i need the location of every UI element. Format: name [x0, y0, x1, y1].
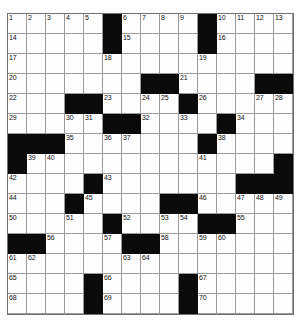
crossword-cell[interactable] — [46, 54, 65, 74]
crossword-cell[interactable]: 70 — [198, 294, 217, 314]
crossword-cell[interactable]: 59 — [198, 234, 217, 254]
crossword-cell[interactable]: 63 — [122, 254, 141, 274]
crossword-cell[interactable]: 62 — [27, 254, 46, 274]
crossword-cell[interactable] — [236, 54, 255, 74]
crossword-cell[interactable]: 55 — [236, 214, 255, 234]
crossword-cell[interactable] — [274, 134, 293, 154]
crossword-cell[interactable] — [65, 254, 84, 274]
crossword-cell[interactable]: 39 — [27, 154, 46, 174]
crossword-cell[interactable] — [46, 174, 65, 194]
crossword-cell[interactable]: 22 — [8, 94, 27, 114]
crossword-cell[interactable] — [274, 34, 293, 54]
crossword-cell[interactable]: 50 — [8, 214, 27, 234]
crossword-cell[interactable] — [27, 174, 46, 194]
crossword-cell[interactable]: 52 — [122, 214, 141, 234]
crossword-cell[interactable] — [27, 114, 46, 134]
crossword-cell[interactable]: 4 — [65, 14, 84, 34]
crossword-cell[interactable] — [141, 214, 160, 234]
crossword-cell[interactable] — [217, 54, 236, 74]
crossword-cell[interactable] — [46, 194, 65, 214]
crossword-cell[interactable]: 19 — [198, 54, 217, 74]
crossword-cell[interactable] — [141, 54, 160, 74]
crossword-cell[interactable] — [255, 294, 274, 314]
crossword-cell[interactable] — [122, 54, 141, 74]
crossword-cell[interactable] — [236, 154, 255, 174]
crossword-cell[interactable] — [46, 114, 65, 134]
crossword-cell[interactable] — [141, 174, 160, 194]
crossword-cell[interactable] — [179, 154, 198, 174]
crossword-cell[interactable]: 44 — [8, 194, 27, 214]
crossword-cell[interactable]: 13 — [274, 14, 293, 34]
crossword-cell[interactable] — [65, 154, 84, 174]
crossword-cell[interactable]: 65 — [8, 274, 27, 294]
crossword-cell[interactable]: 14 — [8, 34, 27, 54]
crossword-cell[interactable] — [160, 134, 179, 154]
crossword-cell[interactable]: 1 — [8, 14, 27, 34]
crossword-cell[interactable] — [84, 234, 103, 254]
crossword-cell[interactable]: 37 — [122, 134, 141, 154]
crossword-cell[interactable]: 16 — [217, 34, 236, 54]
crossword-cell[interactable] — [141, 34, 160, 54]
crossword-cell[interactable] — [217, 74, 236, 94]
crossword-cell[interactable]: 51 — [65, 214, 84, 234]
crossword-cell[interactable]: 67 — [198, 274, 217, 294]
crossword-cell[interactable]: 3 — [46, 14, 65, 34]
crossword-cell[interactable]: 36 — [103, 134, 122, 154]
crossword-cell[interactable] — [217, 154, 236, 174]
crossword-cell[interactable] — [236, 94, 255, 114]
crossword-cell[interactable] — [255, 214, 274, 234]
crossword-cell[interactable] — [27, 74, 46, 94]
crossword-cell[interactable] — [217, 194, 236, 214]
crossword-cell[interactable] — [84, 34, 103, 54]
crossword-cell[interactable]: 38 — [217, 134, 236, 154]
crossword-cell[interactable] — [255, 254, 274, 274]
crossword-cell[interactable] — [198, 114, 217, 134]
crossword-cell[interactable] — [141, 274, 160, 294]
crossword-cell[interactable] — [179, 34, 198, 54]
crossword-cell[interactable] — [141, 194, 160, 214]
crossword-cell[interactable] — [27, 294, 46, 314]
crossword-cell[interactable] — [122, 274, 141, 294]
crossword-cell[interactable] — [179, 54, 198, 74]
crossword-cell[interactable] — [122, 194, 141, 214]
crossword-cell[interactable] — [236, 274, 255, 294]
crossword-cell[interactable] — [255, 234, 274, 254]
crossword-cell[interactable] — [160, 274, 179, 294]
crossword-cell[interactable] — [103, 74, 122, 94]
crossword-cell[interactable] — [84, 214, 103, 234]
crossword-cell[interactable] — [217, 274, 236, 294]
crossword-cell[interactable] — [46, 274, 65, 294]
crossword-cell[interactable] — [27, 54, 46, 74]
crossword-cell[interactable] — [46, 94, 65, 114]
crossword-cell[interactable] — [122, 294, 141, 314]
crossword-cell[interactable] — [65, 54, 84, 74]
crossword-cell[interactable] — [103, 254, 122, 274]
crossword-cell[interactable] — [274, 294, 293, 314]
crossword-cell[interactable] — [255, 54, 274, 74]
crossword-grid[interactable]: 1234567891011121314151617181920212223242… — [7, 13, 294, 315]
crossword-cell[interactable] — [198, 74, 217, 94]
crossword-cell[interactable]: 6 — [122, 14, 141, 34]
crossword-cell[interactable] — [217, 294, 236, 314]
crossword-cell[interactable]: 60 — [217, 234, 236, 254]
crossword-cell[interactable] — [179, 134, 198, 154]
crossword-cell[interactable]: 21 — [179, 74, 198, 94]
crossword-cell[interactable]: 68 — [8, 294, 27, 314]
crossword-cell[interactable]: 34 — [236, 114, 255, 134]
crossword-cell[interactable] — [274, 54, 293, 74]
crossword-cell[interactable] — [179, 174, 198, 194]
crossword-cell[interactable] — [46, 34, 65, 54]
crossword-cell[interactable] — [141, 294, 160, 314]
crossword-cell[interactable]: 7 — [141, 14, 160, 34]
crossword-cell[interactable] — [84, 134, 103, 154]
crossword-cell[interactable]: 41 — [198, 154, 217, 174]
crossword-cell[interactable] — [46, 74, 65, 94]
crossword-cell[interactable]: 53 — [160, 214, 179, 234]
crossword-cell[interactable] — [65, 274, 84, 294]
crossword-cell[interactable] — [84, 254, 103, 274]
crossword-cell[interactable]: 27 — [255, 94, 274, 114]
crossword-cell[interactable] — [84, 74, 103, 94]
crossword-cell[interactable] — [255, 274, 274, 294]
crossword-cell[interactable]: 23 — [103, 94, 122, 114]
crossword-cell[interactable]: 57 — [103, 234, 122, 254]
